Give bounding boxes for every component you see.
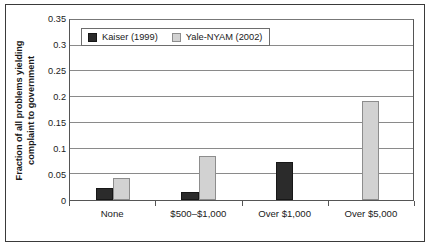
x-axis-tick-label: Over $1,000	[242, 208, 328, 219]
y-axis-tick-label: 0.1	[53, 144, 66, 154]
bar-group	[156, 20, 242, 200]
x-axis-tick	[414, 201, 415, 206]
bar-group	[327, 20, 413, 200]
bar	[362, 101, 379, 200]
legend-swatch-yale-nyam	[172, 33, 181, 42]
legend-label-yale-nyam: Yale-NYAM (2002)	[186, 32, 263, 42]
y-axis-tick-labels: 00.050.10.150.20.250.30.35	[34, 19, 66, 201]
y-axis-title-line-1: Fraction of all problems yielding	[15, 40, 27, 180]
legend-item-yale-nyam: Yale-NYAM (2002)	[172, 32, 263, 42]
bar	[113, 178, 130, 200]
y-axis-tick-label: 0.3	[53, 40, 66, 50]
bar	[181, 192, 198, 200]
x-axis-tick-labels: None$500–$1,000Over $1,000Over $5,000	[69, 208, 414, 219]
y-axis-tick-label: 0.2	[53, 92, 66, 102]
legend-label-kaiser: Kaiser (1999)	[102, 32, 158, 42]
chart-legend: Kaiser (1999) Yale-NYAM (2002)	[81, 28, 270, 46]
y-axis-tick-label: 0	[61, 196, 66, 206]
x-axis-tick	[155, 201, 156, 206]
y-axis-tick-label: 0.35	[48, 14, 66, 24]
x-axis-ticks	[69, 201, 414, 206]
y-axis-tick-label: 0.05	[48, 170, 66, 180]
bar	[199, 156, 216, 200]
chart-figure: Fraction of all problems yielding compla…	[5, 4, 425, 242]
plot-area: Kaiser (1999) Yale-NYAM (2002)	[69, 19, 414, 201]
x-axis-tick	[69, 201, 70, 206]
bar-group	[70, 20, 156, 200]
bar	[96, 188, 113, 200]
legend-item-kaiser: Kaiser (1999)	[88, 32, 158, 42]
y-axis-tick-label: 0.25	[48, 66, 66, 76]
x-axis-tick-label: Over $5,000	[328, 208, 414, 219]
bar	[276, 162, 293, 200]
x-axis-tick-label: None	[69, 208, 155, 219]
y-axis-tick-label: 0.15	[48, 118, 66, 128]
x-axis-tick-label: $500–$1,000	[155, 208, 241, 219]
bar-groups	[70, 20, 413, 200]
x-axis-tick	[242, 201, 243, 206]
bar-group	[242, 20, 328, 200]
legend-swatch-kaiser	[88, 33, 97, 42]
x-axis-tick	[328, 201, 329, 206]
